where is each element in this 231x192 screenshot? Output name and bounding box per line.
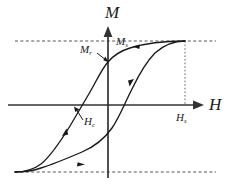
descending-branch-curve <box>15 41 185 172</box>
saturation-magnetization-label: Ms <box>116 36 128 47</box>
remanent-magnetization-base: M <box>80 43 89 55</box>
saturation-magnetization-sub: s <box>125 41 128 48</box>
coercive-field-base: H <box>84 115 92 127</box>
coercive-field-sub: c <box>92 121 95 128</box>
direction-marker-upper-left <box>132 45 140 49</box>
coercive-field-label: Hc <box>84 116 95 127</box>
magnetization-axis-label-text: M <box>105 3 119 22</box>
remanent-magnetization-label: Mr <box>80 44 92 55</box>
magnetization-axis-arrowhead <box>104 26 113 37</box>
hysteresis-plot-canvas <box>0 0 231 192</box>
saturation-field-base: H <box>176 111 184 123</box>
ascending-branch-curve <box>15 41 185 172</box>
field-axis-arrowhead <box>193 101 204 110</box>
saturation-field-sub: s <box>184 117 187 124</box>
field-axis-label-text: H <box>209 95 221 114</box>
magnetization-axis-label: M <box>105 4 119 21</box>
remanent-magnetization-sub: r <box>89 49 92 56</box>
hysteresis-loop-figure: M H Ms Mr Hc Hs <box>0 0 231 192</box>
direction-marker-lower-right <box>77 162 85 166</box>
field-axis-label: H <box>209 96 221 113</box>
saturation-field-label: Hs <box>176 112 187 123</box>
saturation-magnetization-base: M <box>116 35 125 47</box>
